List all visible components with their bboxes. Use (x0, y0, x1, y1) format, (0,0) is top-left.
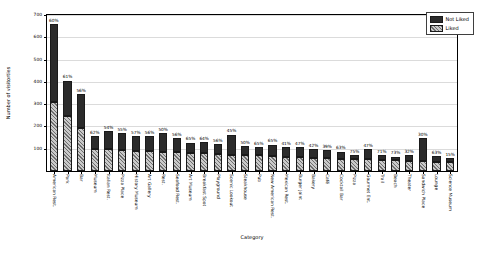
bar-stack[interactable]: 65% (186, 142, 194, 171)
bar-segment-not-liked (50, 24, 58, 102)
bar-segment-not-liked (364, 149, 372, 159)
bar-value-label: 47% (295, 142, 305, 146)
x-tick-label: New American Rest. (270, 174, 274, 218)
bar-segment-not-liked (378, 155, 386, 159)
chart-figure: Number of visitorties Category 100200300… (0, 0, 482, 253)
bar-stack[interactable]: 15% (446, 158, 454, 171)
bar-segment-liked (350, 159, 358, 171)
x-tick-label: Gourmet Ent. (365, 174, 369, 203)
bar-value-label: 60% (49, 19, 59, 23)
bar-stack[interactable]: 64% (200, 142, 208, 171)
bar-stack[interactable]: 50% (241, 146, 249, 171)
bar-stack[interactable]: 61% (63, 81, 71, 171)
bar-stack[interactable]: 56% (173, 138, 181, 171)
bar-stack[interactable]: 50% (159, 133, 167, 171)
bar-segment-not-liked (63, 81, 71, 117)
bar-segment-liked (364, 159, 372, 171)
x-tick-label: Steakhouse (242, 174, 246, 200)
x-tick-label: Scenic Lookout (229, 174, 233, 207)
x-tick-label: American Rest. (51, 174, 55, 207)
plot-area: 100200300400500600700 60%61%56%62%54%55%… (46, 14, 458, 172)
x-tick-label: Pizza (352, 174, 356, 185)
bar-stack[interactable]: 56% (145, 136, 153, 171)
bar-stack[interactable]: 47% (364, 149, 372, 171)
bar-stack[interactable]: 47% (296, 147, 304, 171)
bar-group: 60%61%56%62%54%55%57%56%50%56%65%64%56%4… (47, 15, 457, 171)
bar-stack[interactable]: 57% (132, 136, 140, 171)
bar-segment-liked (118, 150, 126, 171)
legend-label: Not Liked (446, 17, 470, 22)
bar-segment-not-liked (173, 138, 181, 152)
bar-segment-liked (145, 151, 153, 171)
x-tick-label: Seafood Rest. (174, 174, 178, 204)
bar-stack[interactable]: 30% (419, 138, 427, 171)
bar-value-label: 64% (199, 137, 209, 141)
x-tick-label: Science Museum (447, 174, 451, 211)
bar-value-label: 45% (227, 129, 237, 133)
bar-segment-liked (91, 149, 99, 171)
x-tick-label: Sandwich Place (420, 174, 424, 208)
bar-stack[interactable]: 65% (255, 147, 263, 171)
bar-stack[interactable]: 63% (432, 156, 440, 171)
bar-value-label: 62% (90, 131, 100, 135)
x-tick-label: Café (324, 174, 328, 184)
bar-stack[interactable]: 54% (104, 131, 112, 171)
bar-segment-liked (378, 160, 386, 171)
bar-value-label: 50% (240, 141, 250, 145)
bar-segment-liked (186, 153, 194, 171)
bar-value-label: 65% (254, 142, 264, 146)
legend-item[interactable]: Not Liked (430, 16, 470, 23)
bar-segment-not-liked (446, 158, 454, 162)
bar-segment-not-liked (309, 149, 317, 158)
x-tick-label: Breakfast Spot (201, 174, 205, 206)
bar-value-label: 63% (336, 146, 346, 150)
x-tick-label: Pub (256, 174, 260, 182)
bar-value-label: 56% (145, 131, 155, 135)
bar-stack[interactable]: 32% (405, 155, 413, 171)
x-tick-label: Burger Joint (297, 174, 301, 200)
y-tick-label: 300 (34, 102, 42, 106)
bar-segment-liked (159, 152, 167, 171)
bar-segment-not-liked (118, 133, 126, 150)
bar-value-label: 73% (391, 151, 401, 155)
bar-stack[interactable]: 63% (337, 152, 345, 171)
bar-stack[interactable]: 75% (350, 155, 358, 171)
bar-segment-liked (255, 155, 263, 171)
bar-segment-liked (309, 158, 317, 171)
bar-stack[interactable]: 55% (118, 133, 126, 171)
bar-segment-liked (227, 155, 235, 171)
bar-segment-not-liked (186, 143, 194, 153)
bar-segment-liked (405, 161, 413, 171)
bar-stack[interactable]: 60% (50, 24, 58, 171)
bar-stack[interactable]: 62% (91, 136, 99, 171)
y-tick-label: 400 (34, 80, 42, 84)
bar-segment-liked (104, 149, 112, 171)
bar-stack[interactable]: 56% (214, 144, 222, 171)
legend-item[interactable]: Liked (430, 25, 470, 32)
x-tick-label: Mexican Rest. (283, 174, 287, 204)
bar-value-label: 75% (350, 150, 360, 154)
bar-value-label: 56% (172, 133, 182, 137)
bar-stack[interactable]: 65% (268, 145, 276, 171)
bar-segment-not-liked (405, 155, 413, 161)
bar-segment-not-liked (241, 146, 249, 155)
bar-segment-liked (77, 128, 85, 171)
bar-value-label: 65% (268, 139, 278, 143)
y-axis-title: Number of visitorties (5, 67, 11, 120)
bar-stack[interactable]: 39% (323, 150, 331, 171)
bar-stack[interactable]: 71% (378, 155, 386, 171)
x-tick-label: Lounge (434, 174, 438, 190)
bar-segment-not-liked (282, 147, 290, 157)
bar-stack[interactable]: 73% (391, 157, 399, 171)
bar-value-label: 15% (445, 153, 455, 157)
bar-stack[interactable]: 56% (77, 94, 85, 171)
bar-stack[interactable]: 45% (227, 135, 235, 171)
x-axis-title: Category (46, 234, 458, 240)
bar-segment-not-liked (132, 136, 140, 151)
bar-segment-not-liked (323, 150, 331, 158)
bar-segment-liked (296, 157, 304, 171)
bar-stack[interactable]: 41% (282, 147, 290, 171)
bar-value-label: 47% (363, 144, 373, 148)
bar-stack[interactable]: 42% (309, 149, 317, 171)
legend-swatch-icon (430, 25, 443, 32)
